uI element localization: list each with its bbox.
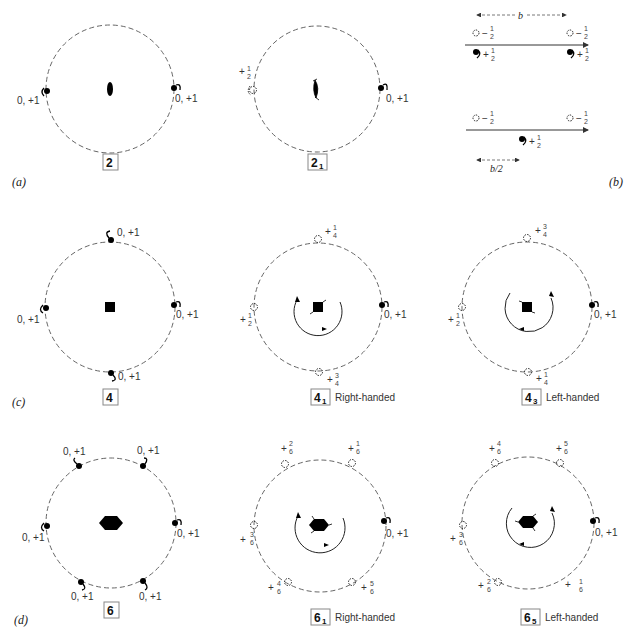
svg-text:1: 1: [584, 110, 588, 117]
height-numerator: 1: [247, 65, 251, 72]
svg-text:3: 3: [335, 372, 339, 379]
svg-text:1: 1: [491, 47, 495, 54]
svg-text:1: 1: [579, 578, 583, 585]
svg-text:6: 6: [289, 448, 293, 455]
motif-open: [495, 579, 502, 586]
motif-open: [248, 86, 256, 95]
screw-axes-diagram: 0, +1 0, +1 2 (a) + 1 2 0, +1 2 1: [0, 0, 634, 628]
svg-text:4: 4: [277, 580, 281, 587]
motif-solid: [171, 302, 180, 308]
svg-text:2: 2: [248, 320, 252, 327]
svg-text:+: +: [268, 582, 274, 593]
svg-text:4: 4: [497, 440, 501, 447]
svg-text:4: 4: [525, 391, 532, 405]
svg-text:2: 2: [487, 578, 491, 585]
motif-open: [473, 115, 479, 121]
svg-text:0, +1: 0, +1: [595, 527, 618, 538]
fourfold-axis-icon: [105, 302, 115, 312]
panel-d-sixfold: 0, +1 0, +1 0, +1 0, +1 0, +1 0, +1 6 (d…: [14, 445, 200, 627]
motif-open: [473, 30, 479, 36]
svg-text:+: +: [535, 225, 541, 236]
svg-text:1: 1: [333, 224, 337, 231]
motif-open: [460, 522, 467, 529]
panel-c-fourfold: 0, +1 0, +1 0, +1 0, +1 4 (c): [12, 227, 199, 409]
motif-solid: [78, 579, 85, 590]
svg-text:2: 2: [289, 440, 293, 447]
svg-text:6: 6: [356, 448, 360, 455]
svg-text:+: +: [348, 443, 354, 454]
svg-text:6: 6: [579, 586, 583, 593]
svg-text:5: 5: [532, 617, 537, 626]
fourfold-screw-axis-icon: [313, 302, 323, 312]
motif-solid: [473, 49, 480, 58]
svg-text:−: −: [576, 28, 582, 39]
motif-open: [524, 235, 531, 242]
panel-a-twofold: 0, +1 0, +1 2 (a): [12, 25, 198, 189]
svg-text:4: 4: [544, 379, 548, 386]
svg-text:1: 1: [544, 371, 548, 378]
svg-text:6: 6: [314, 611, 321, 625]
handedness-label: Left-handed: [546, 392, 599, 403]
dimension-half-b-label: b/2: [490, 163, 503, 174]
sixfold-screw-axis-icon: [309, 519, 329, 531]
svg-text:1: 1: [585, 47, 589, 54]
svg-text:0, +1: 0, +1: [177, 528, 200, 539]
rotation-arrow: [505, 293, 553, 332]
svg-text:3: 3: [543, 223, 547, 230]
svg-text:3: 3: [533, 397, 538, 406]
svg-text:+: +: [478, 580, 484, 591]
svg-text:1: 1: [322, 617, 327, 626]
svg-text:+: +: [483, 49, 489, 60]
motif-solid: [379, 302, 388, 308]
panel-c-fourfold-screw-left: + 3 4 + 1 2 0, +1 + 1 4 4 3 Left-handed: [448, 223, 617, 406]
svg-text:2: 2: [537, 142, 541, 149]
handedness-label: Left-handed: [545, 612, 598, 623]
svg-text:+: +: [489, 443, 495, 454]
svg-text:6: 6: [250, 539, 254, 546]
panel-b-translation: b − 1 2 − 1 2 + 1 2 + 1 2 − 1 2 − 1 2: [465, 10, 623, 189]
svg-text:+: +: [536, 373, 542, 384]
svg-text:5: 5: [370, 580, 374, 587]
sixfold-axis-icon: [99, 516, 123, 530]
motif-solid: [41, 305, 50, 313]
height-label: 0, +1: [17, 95, 40, 106]
svg-text:+: +: [240, 534, 246, 545]
svg-text:+: +: [281, 443, 287, 454]
motif-open: [316, 369, 323, 376]
svg-text:5: 5: [564, 440, 568, 447]
svg-text:2: 2: [585, 55, 589, 62]
svg-text:4: 4: [106, 391, 113, 405]
svg-text:2: 2: [490, 33, 494, 40]
svg-text:0, +1: 0, +1: [594, 309, 617, 320]
motif-solid: [378, 84, 387, 91]
svg-text:−: −: [482, 28, 488, 39]
svg-text:0, +1: 0, +1: [71, 591, 94, 602]
svg-text:6: 6: [564, 448, 568, 455]
svg-text:1: 1: [490, 25, 494, 32]
svg-text:4: 4: [333, 232, 337, 239]
motif-solid: [381, 518, 390, 524]
svg-text:0, +1: 0, +1: [117, 227, 140, 238]
svg-text:2: 2: [456, 320, 460, 327]
symbol-subscript: 1: [319, 162, 324, 171]
svg-text:+: +: [448, 314, 454, 325]
svg-text:4: 4: [335, 380, 339, 387]
svg-text:1: 1: [490, 110, 494, 117]
svg-text:+: +: [565, 579, 571, 590]
svg-text:2: 2: [491, 55, 495, 62]
dimension-b-label: b: [518, 10, 523, 21]
height-denominator: 2: [247, 73, 251, 80]
svg-text:0, +1: 0, +1: [176, 309, 199, 320]
svg-text:1: 1: [456, 312, 460, 319]
svg-text:2: 2: [584, 33, 588, 40]
symbol-label: 2: [106, 156, 113, 170]
motif-solid: [567, 49, 574, 58]
motif-open: [282, 461, 289, 468]
svg-text:1: 1: [248, 312, 252, 319]
svg-text:6: 6: [487, 586, 491, 593]
fourfold-screw-axis-icon: [522, 302, 532, 312]
handedness-label: Right-handed: [335, 392, 395, 403]
panel-tag: (c): [12, 395, 25, 409]
svg-text:6: 6: [497, 448, 501, 455]
svg-text:6: 6: [370, 588, 374, 595]
